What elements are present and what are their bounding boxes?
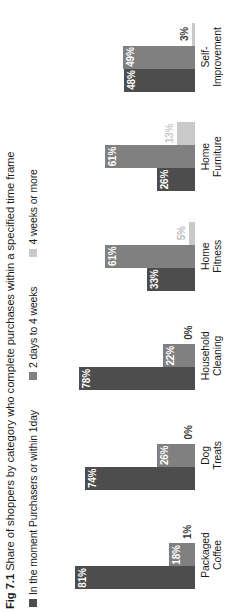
bar-slot: 49% [46,46,196,69]
x-axis-labels: PackagedCoffeeDogTreatsHouseholdCleaning… [200,21,223,591]
bar-slot: 0% [46,321,196,344]
bar-value-label: 22% [165,346,176,365]
bar-value-label: 13% [164,124,175,143]
bar-slot: 3% [46,23,196,46]
bar-group: 48%49%3% [46,21,196,93]
bar-value-label: 0% [183,326,194,340]
x-axis-label-line: Packaged [200,519,212,591]
bar-value-label: 81% [77,568,88,587]
bar-value-label: 0% [183,425,194,439]
x-axis-label: DogTreats [200,419,223,491]
bar-slot: 0% [46,421,196,444]
bar: 26% [157,444,196,467]
legend-swatch-icon [29,372,37,380]
axis-baseline [195,21,196,591]
bar: 61% [105,245,197,268]
bar: 18% [169,544,196,567]
x-axis-label: HouseholdCleaning [200,320,223,392]
bar-value-label: 18% [171,545,182,564]
bar-slot: 22% [46,344,196,367]
legend-label: 4 weeks or more [28,169,39,244]
bar-value-label: 5% [176,226,187,240]
bar-value-label: 61% [107,147,118,166]
bar: 48% [124,69,196,92]
bar-value-label: 78% [81,369,92,388]
x-axis-label-line: Cleaning [212,320,224,392]
bar-value-label: 48% [126,70,137,89]
bar: 26% [157,168,196,191]
bar-value-label: 49% [125,47,136,66]
bar-group: 74%26%0% [46,419,196,491]
bar: 81% [75,567,197,590]
bar-slot: 5% [46,222,196,245]
x-axis-label-line: Furniture [212,121,224,193]
x-axis-label-line: Fitness [212,220,224,292]
x-axis-label-line: Improvement [212,21,224,93]
x-axis-label-line: Dog [200,419,212,491]
x-axis-label-line: Home [200,220,212,292]
bar-slot: 1% [46,521,196,544]
bar: 33% [147,268,197,291]
bar: 49% [123,46,197,69]
x-axis-label-line: Home [200,121,212,193]
legend-item-in-the-moment: In the moment Purchasers or within 1day [28,410,39,607]
bar: 74% [85,467,196,490]
x-axis-label: HomeFitness [200,220,223,292]
bar-value-label: 26% [159,446,170,465]
figure-number: Fig 7.1 [4,574,16,609]
bar-slot: 13% [46,122,196,145]
legend-label: 2 days to 4 weeks [28,287,39,368]
figure-title: Share of shoppers by category who comple… [4,151,16,570]
x-axis-label: PackagedCoffee [200,519,223,591]
x-axis-label: Self-Improvement [200,21,223,93]
legend-item-4-weeks-or-more: 4 weeks or more [28,169,39,256]
x-axis-label-line: Self- [200,21,212,93]
figure-caption: Fig 7.1 Share of shoppers by category wh… [4,9,16,609]
bar-value-label: 74% [87,469,98,488]
bar-slot: 48% [46,69,196,92]
bar: 22% [163,344,196,367]
bar: 13% [177,122,197,145]
legend-label: In the moment Purchasers or within 1day [28,410,39,595]
bar: 61% [105,145,197,168]
bar-slot: 26% [46,444,196,467]
x-axis-label-line: Coffee [212,519,224,591]
bar-slot: 33% [46,268,196,291]
bar: 78% [79,367,196,390]
bar-slot: 78% [46,367,196,390]
legend-swatch-icon [29,599,37,607]
bar-group: 81%18%1% [46,519,196,591]
bar-slot: 61% [46,145,196,168]
bar-group: 78%22%0% [46,320,196,392]
chart-legend: In the moment Purchasers or within 1day … [26,169,40,607]
bar-group: 26%61%13% [46,121,196,193]
bar-value-label: 3% [179,27,190,41]
bar-value-label: 26% [159,170,170,189]
legend-item-2-days-to-4-weeks: 2 days to 4 weeks [28,287,39,380]
bar-slot: 26% [46,168,196,191]
bar-value-label: 61% [107,247,118,266]
bar-slot: 81% [46,567,196,590]
bar-slot: 18% [46,544,196,567]
bar-value-label: 33% [149,270,160,289]
x-axis-label: HomeFurniture [200,121,223,193]
bar-value-label: 1% [182,525,193,539]
x-axis-label-line: Household [200,320,212,392]
bar-group: 33%61%5% [46,220,196,292]
chart-canvas: Fig 7.1 Share of shoppers by category wh… [0,0,233,613]
plot-area: 81%18%1%74%26%0%78%22%0%33%61%5%26%61%13… [46,21,196,591]
bar-slot: 74% [46,467,196,490]
bar-slot: 61% [46,245,196,268]
legend-swatch-icon [29,249,37,257]
bar-groups: 81%18%1%74%26%0%78%22%0%33%61%5%26%61%13… [46,21,196,591]
x-axis-label-line: Treats [212,419,224,491]
